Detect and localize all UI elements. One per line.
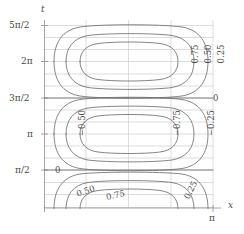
ytick-label-pi: π — [27, 129, 33, 139]
y-axis-label: t — [41, 4, 45, 14]
grid-lines — [44, 20, 213, 208]
ytick-label-pi-over-2: π/2 — [15, 165, 30, 175]
xtick-label-pi: π — [209, 213, 215, 223]
contour-label-zero-lower: 0 — [55, 165, 60, 175]
contour-plot-figure: 5π/2 2π 3π/2 π π/2 π t x 0.75 0.50 0.25 … — [0, 0, 244, 234]
x-axis-label: x — [228, 200, 233, 210]
contour-label-top-075: 0.75 — [190, 45, 200, 64]
ytick-label-3pi-over-2: 3π/2 — [9, 93, 29, 103]
contour-label-mid-m075: −0.75 — [172, 110, 182, 136]
ytick-label-5pi-over-2: 5π/2 — [9, 20, 29, 30]
contour-label-top-050: 0.50 — [203, 45, 213, 64]
contour-label-mid-m025: −0.25 — [206, 110, 216, 136]
ytick-label-2pi: 2π — [21, 56, 33, 66]
contour-label-zero-upper: 0 — [213, 93, 218, 103]
contour-label-mid-m050: −0.50 — [77, 110, 87, 136]
contour-label-top-025: 0.25 — [216, 45, 226, 64]
